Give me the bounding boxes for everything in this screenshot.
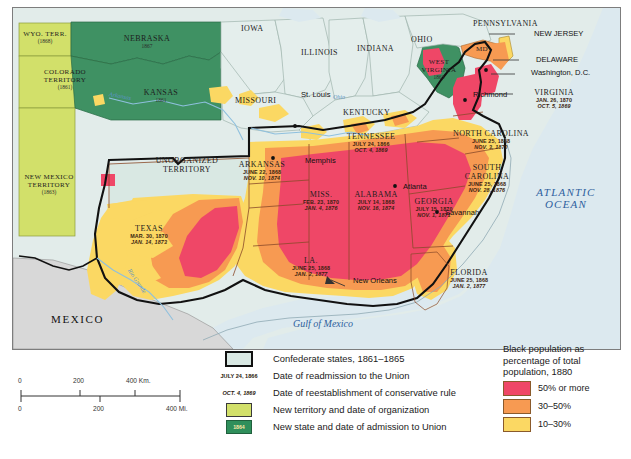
population-legend-label-30-50: 30–50% bbox=[538, 401, 571, 411]
legend-label-confederate: Confederate states, 1861–1865 bbox=[273, 353, 404, 364]
scale-mi-tick-200: 200 bbox=[93, 405, 104, 412]
legend-key-readmission: JULY 24, 1866 bbox=[205, 373, 273, 379]
population-legend-row-30-50: 30–50% bbox=[503, 399, 627, 414]
swatch-pop-30-50 bbox=[503, 399, 531, 414]
label-west-virginia: WEST VIRGINIA 1863 bbox=[421, 58, 456, 80]
legend-row-new-territory: New territory and date of organization bbox=[205, 401, 485, 418]
map-frame: WYO. TERR. (1868) COLORADO TERRITORY (18… bbox=[12, 7, 621, 350]
label-north-carolina: NORTH CAROLINA JUNE 25, 1868 NOV. 3, 187… bbox=[453, 129, 529, 150]
map-legend: Confederate states, 1861–1865 JULY 24, 1… bbox=[205, 350, 485, 435]
legend-key-new-territory bbox=[205, 403, 273, 417]
swatch-confederate-states bbox=[225, 351, 253, 367]
label-nebraska: NEBRASKA 1867 bbox=[124, 34, 170, 49]
swatch-new-state: 1864 bbox=[226, 420, 252, 434]
swatch-pop-50-or-more bbox=[503, 381, 531, 396]
label-new-mexico-territory: NEW MEXICO TERRITORY (1863) bbox=[24, 173, 73, 195]
legend-row-confederate: Confederate states, 1861–1865 bbox=[205, 350, 485, 367]
scale-km-tick-200: 200 bbox=[73, 377, 84, 384]
label-virginia: VIRGINIA JAN. 26, 1870 OCT. 5, 1869 bbox=[534, 88, 574, 109]
legend-key-conservative-rule: OCT. 4, 1869 bbox=[205, 390, 273, 396]
swatch-pop-10-30 bbox=[503, 417, 531, 432]
population-legend-label-50: 50% or more bbox=[538, 383, 590, 393]
scale-mi-tick-0: 0 bbox=[18, 405, 22, 412]
scale-km-tick-400: 400 Km. bbox=[126, 377, 151, 384]
label-arkansas: ARKANSAS JUNE 22, 1868 NOV. 10, 1874 bbox=[239, 160, 285, 181]
legend-label-readmission: Date of readmission to the Union bbox=[273, 370, 410, 381]
scale-bar: 0 200 400 Km. 0 200 400 Mi. bbox=[18, 377, 188, 419]
legend-sample-admission-year: 1864 bbox=[233, 424, 245, 430]
scale-bar-graphic bbox=[18, 387, 188, 405]
population-legend-title-line3: population, 1880 bbox=[503, 366, 627, 378]
population-legend-row-10-30: 10–30% bbox=[503, 417, 627, 432]
label-georgia: GEORGIA JULY 15, 1870 NOV. 1, 1871 bbox=[415, 197, 454, 218]
population-legend-title-line1: Black population as bbox=[503, 343, 627, 355]
scale-km-tick-0: 0 bbox=[18, 377, 22, 384]
legend-key-new-state: 1864 bbox=[205, 420, 273, 434]
legend-label-new-territory: New territory and date of organization bbox=[273, 404, 429, 415]
map-graphic bbox=[13, 8, 620, 349]
legend-sample-conservative-date: OCT. 4, 1869 bbox=[222, 390, 255, 396]
legend-label-new-state: New state and date of admission to Union bbox=[273, 421, 447, 432]
population-legend-title-line2: percentage of total bbox=[503, 355, 627, 367]
swatch-new-territory bbox=[226, 403, 252, 417]
population-legend-title: Black population as percentage of total … bbox=[503, 343, 627, 378]
population-legend: Black population as percentage of total … bbox=[503, 343, 627, 432]
label-atlantic-ocean: ATLANTIC OCEAN bbox=[536, 186, 595, 210]
legend-sample-readmission-date: JULY 24, 1866 bbox=[220, 373, 257, 379]
population-legend-row-50: 50% or more bbox=[503, 381, 627, 396]
label-florida: FLORIDA JUNE 25, 1868 JAN. 2, 1877 bbox=[450, 268, 488, 289]
label-tennessee: TENNESSEE JULY 24, 1866 OCT. 4, 1869 bbox=[347, 132, 396, 153]
population-legend-label-10-30: 10–30% bbox=[538, 419, 571, 429]
label-colorado-territory: COLORADO TERRITORY (1861) bbox=[44, 68, 86, 90]
legend-row-new-state: 1864 New state and date of admission to … bbox=[205, 418, 485, 435]
legend-label-conservative-rule: Date of reestablishment of conservative … bbox=[273, 387, 456, 398]
label-south-carolina: SOUTH CAROLINA JUNE 25, 1868 NOV. 28, 18… bbox=[465, 163, 510, 193]
legend-row-readmission: JULY 24, 1866 Date of readmission to the… bbox=[205, 367, 485, 384]
label-mississippi: MISS. FEB. 23, 1870 JAN. 4, 1876 bbox=[303, 190, 339, 211]
label-alabama: ALABAMA JULY 14, 1868 NOV. 16, 1874 bbox=[354, 190, 397, 211]
legend-key-confederate bbox=[205, 351, 273, 367]
label-unorganized-territory: UNORGANIZED TERRITORY bbox=[156, 156, 219, 174]
label-kansas: KANSAS 1861 bbox=[144, 88, 178, 103]
map-page: WYO. TERR. (1868) COLORADO TERRITORY (18… bbox=[0, 0, 631, 459]
label-louisiana: LA. JUNE 25, 1868 JAN. 2, 1877 bbox=[292, 256, 330, 277]
label-texas: TEXAS MAR. 30, 1870 JAN. 14, 1873 bbox=[130, 224, 168, 245]
label-wyoming-territory: WYO. TERR. (1868) bbox=[23, 30, 67, 44]
scale-mi-tick-400: 400 Mi. bbox=[166, 405, 188, 412]
legend-row-conservative-rule: OCT. 4, 1869 Date of reestablishment of … bbox=[205, 384, 485, 401]
